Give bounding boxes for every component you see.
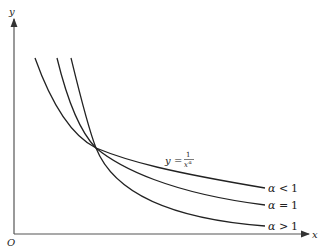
svg-text:y: y — [164, 155, 171, 166]
origin-label: O — [7, 237, 15, 248]
svg-text:α: α — [189, 159, 193, 165]
svg-text:=: = — [279, 199, 288, 212]
x-axis-label: x — [312, 229, 318, 240]
svg-text:1: 1 — [186, 151, 190, 159]
svg-text:<: < — [279, 182, 288, 195]
label-alpha-lt-1: α < 1 — [268, 182, 298, 195]
svg-text:1: 1 — [291, 182, 298, 195]
curve-alpha-lt-1 — [35, 58, 265, 188]
y-axis-label: y — [8, 6, 15, 17]
svg-text:α: α — [268, 182, 276, 195]
svg-text:1: 1 — [291, 220, 298, 233]
svg-text:>: > — [279, 220, 288, 233]
svg-text:α: α — [268, 220, 276, 233]
svg-text:=: = — [174, 155, 182, 166]
power-function-diagram: y x O y = 1 x α α < 1 α = 1 α > 1 — [0, 0, 324, 252]
label-alpha-eq-1: α = 1 — [268, 199, 298, 212]
svg-text:1: 1 — [291, 199, 298, 212]
svg-text:α: α — [268, 199, 276, 212]
label-alpha-gt-1: α > 1 — [268, 220, 298, 233]
svg-text:x: x — [184, 161, 188, 169]
equation-label: y = 1 x α — [164, 151, 194, 169]
